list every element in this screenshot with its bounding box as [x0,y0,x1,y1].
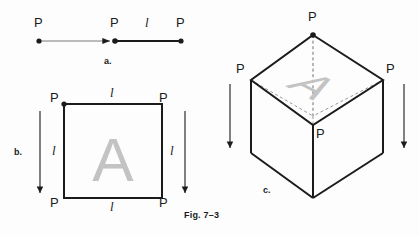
figure-drawing-canvas: A A [0,0,419,235]
part-a-diagram [36,38,183,44]
part-c-diagram [230,32,404,198]
part-a-label-p-left: P [34,16,43,29]
part-b-corner-dot [61,101,66,106]
part-a-label-p-middle: P [110,16,119,29]
part-b-label-p-bottom-left: P [50,196,59,209]
part-b-label: b. [14,148,22,157]
part-a-point-left [36,38,41,43]
part-b-label-length-right: l [170,144,174,157]
part-c-label-p-right: P [386,62,395,75]
part-c-label-p-top: P [308,10,317,23]
part-a-point-right [178,38,183,43]
part-b-label-length-left: l [52,144,56,157]
part-c-label-p-left: P [236,62,245,75]
part-a-label-length: l [145,16,149,29]
part-c-face-letter-group: A [276,66,351,105]
part-b-label-p-top-right: P [159,91,168,104]
part-b-face-letter: A [92,125,134,194]
part-c-face-letter: A [276,66,351,105]
figure-7-3: A A P P P l a. b. P P P P l l l l P P P … [0,0,419,235]
part-a-point-middle [112,38,118,44]
part-b-label-p-bottom-right: P [159,196,168,209]
part-c-label: c. [263,186,271,195]
part-a-label: a. [104,57,112,66]
part-c-edge-bottom-left [251,153,313,198]
part-c-top-vertex-dot [310,32,316,38]
part-b-label-p-top-left: P [50,91,59,104]
part-c-edge-bottom-right [313,153,383,198]
part-a-label-p-right: P [176,16,185,29]
part-b-label-length-bottom: l [110,200,114,213]
part-c-label-p-center: P [316,127,325,140]
figure-caption: Fig. 7–3 [184,211,219,220]
part-b-label-length-top: l [110,86,114,99]
